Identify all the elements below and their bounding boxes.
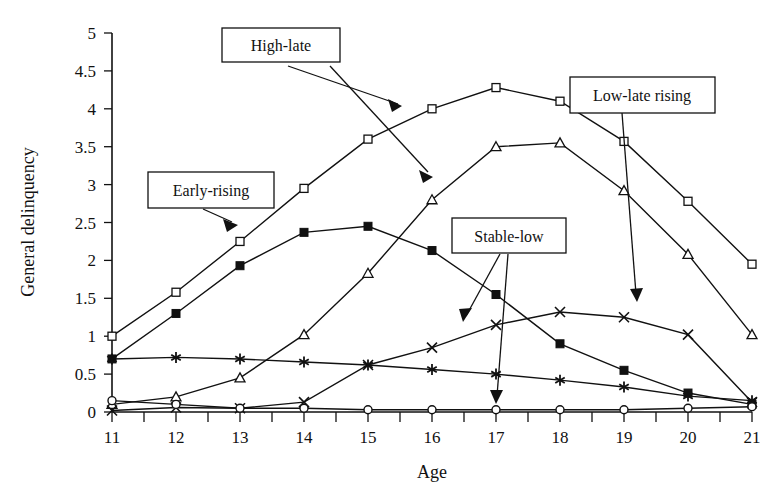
series-circle-series [108, 397, 756, 414]
y-tick-label: 0 [88, 403, 97, 422]
data-point-filled-square [620, 366, 628, 374]
series-stable-low [107, 352, 757, 406]
data-point-filled-square [428, 247, 436, 255]
data-point-open-square [172, 288, 180, 296]
callout-arrowhead [459, 308, 472, 322]
y-axis-title: General delinquency [18, 147, 38, 296]
data-point-open-triangle [555, 138, 565, 147]
callout-leader-line [203, 209, 232, 222]
data-point-open-square [556, 97, 564, 105]
data-point-open-circle [684, 404, 692, 412]
x-tick-label: 12 [168, 428, 185, 447]
x-tick-label: 19 [616, 428, 633, 447]
y-tick-label: 1.5 [75, 289, 96, 308]
data-point-open-square [492, 84, 500, 92]
data-point-open-circle [620, 406, 628, 414]
callout-arrowhead [630, 288, 643, 302]
callout-label: High-late [251, 37, 311, 55]
y-tick-label: 5 [88, 24, 97, 43]
series-early-rising [108, 222, 756, 408]
y-tick-label: 0.5 [75, 365, 96, 384]
data-point-open-square [236, 237, 244, 245]
callout-arrowhead [388, 99, 402, 112]
y-axis-tick-labels: 0 0.5 1 1.5 2 2.5 3 3.5 4 4.5 5 [75, 24, 97, 422]
x-axis-title: Age [417, 462, 447, 482]
chart-figure: 0 0.5 1 1.5 2 2.5 3 3.5 4 4.5 5 [0, 0, 775, 502]
data-point-open-square [684, 197, 692, 205]
x-tick-label: 20 [680, 428, 697, 447]
data-point-open-circle [492, 406, 500, 414]
x-tick-label: 15 [360, 428, 377, 447]
x-axis-tick-labels: 11 12 13 14 15 16 17 18 19 20 21 [104, 428, 761, 447]
y-tick-label: 4.5 [75, 62, 96, 81]
data-point-open-square [108, 332, 116, 340]
data-point-filled-square [556, 340, 564, 348]
callout-leader-line [288, 66, 398, 104]
x-tick-label: 11 [104, 428, 120, 447]
data-point-open-square [748, 260, 756, 268]
data-point-open-circle [300, 404, 308, 412]
data-point-open-circle [364, 406, 372, 414]
y-tick-label: 4 [88, 100, 97, 119]
x-tick-label: 16 [424, 428, 441, 447]
data-point-filled-square [172, 309, 180, 317]
y-tick-label: 2.5 [75, 214, 96, 233]
x-tick-label: 14 [296, 428, 314, 447]
callout-leader-line [466, 254, 500, 316]
y-tick-label: 2 [88, 251, 97, 270]
callout-label: Early-rising [173, 182, 249, 200]
data-point-open-circle [172, 400, 180, 408]
callout-stable-low[interactable]: Stable-low [452, 218, 566, 404]
x-tick-label: 17 [488, 428, 506, 447]
callout-leader-line [330, 66, 428, 172]
data-point-open-circle [556, 406, 564, 414]
data-point-open-circle [428, 406, 436, 414]
x-tick-label: 13 [232, 428, 249, 447]
series-line [112, 312, 752, 411]
data-point-open-circle [748, 403, 756, 411]
y-tick-label: 1 [88, 327, 97, 346]
data-point-filled-square [300, 228, 308, 236]
data-point-filled-square [492, 291, 500, 299]
data-point-x-cross [427, 343, 437, 353]
series-layer [107, 84, 757, 416]
data-point-x-cross [683, 330, 693, 340]
data-point-open-square [364, 135, 372, 143]
x-tick-label: 21 [744, 428, 761, 447]
callout-high-late[interactable]: High-late [222, 28, 433, 183]
callout-leader-line [622, 113, 636, 294]
y-tick-label: 3.5 [75, 138, 96, 157]
callout-early-rising[interactable]: Early-rising [148, 172, 274, 232]
series-high-late [108, 84, 756, 341]
callout-arrowhead [490, 390, 503, 404]
data-point-filled-square [236, 262, 244, 270]
callout-arrowhead [419, 170, 433, 183]
data-point-open-square [300, 184, 308, 192]
callout-label: Stable-low [474, 228, 544, 245]
data-point-filled-square [364, 222, 372, 230]
callout-label: Low-late rising [593, 87, 691, 105]
data-point-open-square [428, 105, 436, 113]
y-tick-label: 3 [88, 176, 97, 195]
data-point-open-circle [236, 404, 244, 412]
callout-low-late-rising[interactable]: Low-late rising [570, 77, 715, 302]
data-point-open-circle [108, 397, 116, 405]
series-line [112, 357, 752, 400]
x-tick-label: 18 [552, 428, 569, 447]
data-point-open-triangle [235, 373, 245, 382]
series-x-series [107, 307, 757, 416]
line-chart-svg: 0 0.5 1 1.5 2 2.5 3 3.5 4 4.5 5 [0, 0, 775, 502]
